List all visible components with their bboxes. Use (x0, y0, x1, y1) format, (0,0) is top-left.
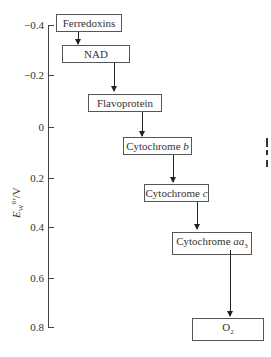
arrow-down-icon (173, 155, 174, 182)
tick-label: 0.2 (4, 172, 44, 184)
arrow-down-icon (197, 202, 198, 229)
edge-mark (266, 160, 268, 167)
node-flavoprotein: Flavoprotein (88, 94, 162, 112)
arrow-down-icon (78, 32, 79, 44)
tick (48, 278, 54, 279)
tick (48, 178, 54, 179)
tick (48, 75, 54, 76)
tick (48, 327, 54, 328)
axis-line (48, 25, 49, 328)
node-cytochrome-b: Cytochrome b (123, 137, 192, 155)
node-nad: NAD (62, 45, 130, 63)
axis-title: EW°'/V (10, 187, 25, 218)
arrow-down-icon (142, 112, 143, 136)
node-cytochrome-aa3: Cytochrome aa3 (172, 232, 252, 255)
tick (48, 25, 54, 26)
node-o2: O2 (192, 318, 264, 341)
tick-label: −0.2 (4, 69, 44, 81)
arrow-down-icon (114, 63, 115, 91)
tick (48, 227, 54, 228)
tick-label: 0.6 (4, 272, 44, 284)
edge-mark (266, 138, 268, 147)
tick-label: 0.8 (4, 321, 44, 333)
arrow-down-icon (230, 250, 231, 316)
tick-label: −0.4 (4, 19, 44, 31)
node-ferredoxins: Ferredoxins (56, 14, 122, 32)
edge-mark (266, 150, 268, 155)
tick-label: 0.4 (4, 221, 44, 233)
tick (48, 127, 54, 128)
tick-label: 0 (4, 121, 44, 133)
node-cytochrome-c: Cytochrome c (144, 184, 209, 202)
